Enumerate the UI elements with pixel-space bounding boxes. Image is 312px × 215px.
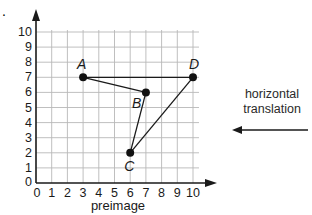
point-label-A: A (76, 56, 86, 72)
x-tick-label: 9 (174, 186, 181, 200)
problem-marker: . (2, 3, 6, 19)
x-tick-label: 3 (80, 186, 87, 200)
x-tick-label: 0 (34, 186, 41, 200)
point-A (79, 73, 87, 81)
point-C (126, 149, 134, 157)
point-D (189, 73, 197, 81)
y-tick-label: 10 (18, 25, 32, 39)
y-tick-label: 3 (25, 131, 32, 145)
x-tick-label: 2 (64, 186, 71, 200)
figure-segments (83, 77, 193, 153)
point-label-C: C (124, 158, 135, 174)
x-tick-label: 10 (186, 186, 200, 200)
translation-arrow-icon (232, 126, 308, 134)
x-tick-label: 8 (158, 186, 165, 200)
y-tick-label: 2 (25, 146, 32, 160)
tick-labels: 012345678910012345678910 (18, 25, 200, 200)
x-tick-label: 1 (48, 186, 55, 200)
y-tick-label: 6 (25, 85, 32, 99)
translation-label-line1: horizontal (232, 87, 312, 102)
point-label-D: D (189, 56, 199, 72)
y-tick-label: 8 (25, 55, 32, 69)
translation-label-line2: translation (232, 102, 312, 117)
figure-points: ABCD (76, 56, 199, 174)
point-label-B: B (132, 95, 141, 111)
translation-label: horizontal translation (232, 87, 312, 117)
point-B (142, 88, 150, 96)
y-tick-label: 0 (25, 175, 32, 189)
grid-lines (36, 30, 199, 183)
y-tick-label: 7 (25, 70, 32, 84)
y-tick-label: 4 (25, 116, 32, 130)
y-tick-label: 9 (25, 40, 32, 54)
y-tick-label: 1 (25, 161, 32, 175)
y-tick-label: 5 (25, 101, 32, 115)
graph-caption: preimage (91, 198, 145, 213)
